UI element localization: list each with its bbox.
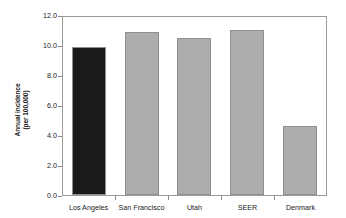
y-axis-tick-label: 12.0 <box>17 12 57 19</box>
y-axis-tick-label: 4.0 <box>17 132 57 139</box>
y-axis-tick-mark <box>58 196 62 197</box>
x-axis-tick-mark <box>168 196 169 200</box>
x-axis-tick-mark <box>274 196 275 200</box>
bar-chart-figure: Annual incidence (per 100,000) 12.010.08… <box>0 0 346 218</box>
x-axis-tick-mark <box>115 196 116 200</box>
y-axis-tick-label: 0.0 <box>17 192 57 199</box>
x-axis-tick-mark <box>221 196 222 200</box>
x-axis-tick-label: Denmark <box>266 203 336 212</box>
bar-san-francisco <box>125 32 159 196</box>
bar-series <box>63 17 326 195</box>
y-axis-tick-label: 8.0 <box>17 72 57 79</box>
bar-utah <box>177 38 211 196</box>
y-axis-tick-label: 10.0 <box>17 42 57 49</box>
plot-area <box>62 16 327 196</box>
bar-los-angeles <box>72 47 106 196</box>
y-axis-tick-label: 6.0 <box>17 102 57 109</box>
y-axis-tick-label: 2.0 <box>17 162 57 169</box>
bar-seer <box>230 30 264 195</box>
bar-denmark <box>283 126 317 195</box>
